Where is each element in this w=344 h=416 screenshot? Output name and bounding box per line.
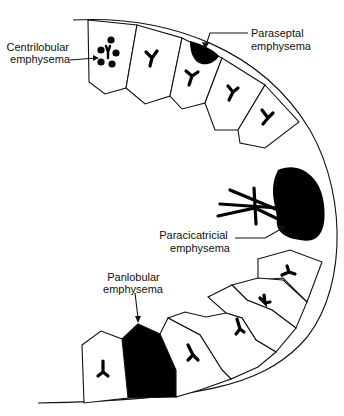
label-centrilobular: Centrilobular emphysema <box>7 41 72 65</box>
label-paraseptal: Paraseptal emphysema <box>251 27 312 52</box>
paraseptal-pointer <box>202 33 248 49</box>
centrilobular-pointer <box>70 55 99 61</box>
scar-icon <box>218 188 280 224</box>
lobule-normal-8 <box>82 331 128 403</box>
panlobular-pointer <box>135 293 141 323</box>
emphysema-diagram: Centrilobular emphysema Paraseptal emphy… <box>0 0 344 416</box>
label-paracicatricial: Paracicatricial emphysema <box>159 229 231 254</box>
label-panlobular: Panlobular emphysema <box>103 271 164 295</box>
